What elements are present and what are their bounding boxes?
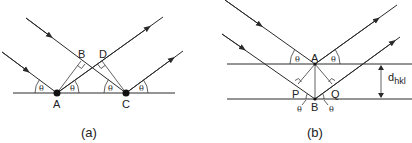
angle-arc-icon [75,80,80,93]
label-c: C [122,98,130,110]
label-p: P [292,88,299,100]
arrow-icon [2,52,27,71]
label-a: A [53,98,61,110]
angle-arc-icon [290,50,295,64]
perpendicular-cd [102,61,126,93]
panel-a: θ θ θ θ A B C D (a) [2,17,183,140]
diffraction-diagram: θ θ θ θ A B C D (a) θ θ [0,0,412,143]
spacing-label: dhkl [388,71,406,86]
arrow-down-icon [378,93,384,98]
arrow-up-icon [378,65,384,70]
angle-arc-icon [144,80,149,93]
right-angle-icon [98,64,106,69]
label-a: A [311,52,319,64]
arrow-icon [126,59,172,93]
right-angle-icon [329,79,336,83]
arrow-icon [315,20,377,65]
theta-leader [302,100,306,105]
theta-label: θ [139,84,144,93]
theta-label: θ [39,84,44,93]
arrow-icon [26,18,50,36]
label-d: D [99,48,107,60]
caption-b: (b) [307,125,323,140]
arrow-icon [222,34,243,49]
arrow-icon [225,0,260,25]
caption-a: (a) [81,125,97,140]
right-angle-icon [295,79,302,83]
point-c-dot [123,90,130,97]
panel-b: θ θ θ θ A B P Q dhkl (b) [222,0,412,140]
theta-label: θ [70,84,75,93]
label-b: B [311,101,318,113]
angle-arc-icon [306,94,308,100]
angle-arc-icon [336,50,341,64]
theta-leader [324,100,328,105]
theta-label: θ [295,55,300,64]
angle-arc-icon [323,94,325,100]
theta-label: θ [297,105,302,114]
label-b: B [78,48,85,60]
theta-label: θ [331,55,336,64]
label-q: Q [331,88,340,100]
spacing-subscript: hkl [394,76,406,86]
theta-label: θ [108,84,113,93]
theta-label: θ [329,105,334,114]
point-a-dot [54,90,61,97]
